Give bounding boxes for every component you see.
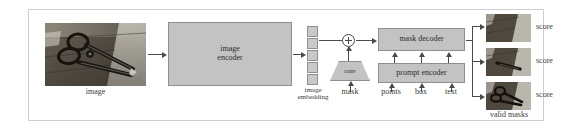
image-encoder-label-line2: encoder (217, 54, 242, 63)
prompt-to-decoder-head (392, 52, 398, 57)
sum-to-mask-decoder-line (356, 40, 373, 41)
conv-to-sum-head (346, 46, 352, 51)
image-embedding-cell (307, 38, 318, 49)
mask-decoder-label: mask decoder (399, 35, 443, 44)
conv-label: conv (330, 61, 370, 81)
image-embedding-cell (307, 50, 318, 61)
image-embedding-label: image embedding (288, 87, 338, 102)
prompt-to-decoder-head (446, 52, 452, 57)
output-mask-graphic-2 (486, 48, 531, 76)
embedding-to-sum-line (319, 40, 342, 41)
prompt-label-box: box (405, 88, 437, 96)
image-encoder-block: image encoder (168, 22, 292, 86)
input-image-graphic (45, 23, 146, 86)
prompt-label-text: text (435, 88, 467, 96)
arrow-image-to-encoder-head (162, 52, 167, 58)
fanout-branch-head (480, 94, 485, 100)
mask-prompt-to-conv-head (348, 81, 354, 86)
prompt-encoder-label: prompt encoder (396, 69, 446, 78)
arrow-encoder-to-embedding-head (301, 52, 306, 58)
valid-masks-group-label: valid masks (478, 111, 540, 119)
output-score-label: score (536, 57, 568, 65)
conv-block: conv (330, 61, 370, 81)
output-mask-graphic-3 (486, 82, 531, 110)
output-score-label: score (536, 91, 568, 99)
output-score-label: score (536, 23, 568, 31)
image-embedding-cell (307, 74, 318, 85)
arrow-image-to-encoder-line (148, 54, 163, 55)
input-image-thumbnail (45, 23, 146, 86)
fanout-branch-head (480, 59, 485, 65)
output-mask-graphic-1 (486, 14, 531, 42)
sum-to-mask-decoder-head (372, 38, 377, 44)
fanout-branch-head (480, 24, 485, 30)
prompt-to-decoder-head (419, 52, 425, 57)
input-image-label: image (45, 88, 146, 96)
image-embedding-cell (307, 26, 318, 37)
output-mask-thumbnail (486, 48, 531, 76)
output-mask-thumbnail (486, 82, 531, 110)
prompt-label-mask: mask (332, 88, 368, 96)
output-mask-thumbnail (486, 14, 531, 42)
mask-decoder-block: mask decoder (378, 28, 465, 51)
prompt-encoder-block: prompt encoder (378, 63, 465, 83)
image-embedding-label-line2: embedding (288, 94, 338, 101)
image-embedding-cell (307, 62, 318, 73)
sam-architecture-figure: image image encoder image embedding conv… (0, 0, 574, 132)
